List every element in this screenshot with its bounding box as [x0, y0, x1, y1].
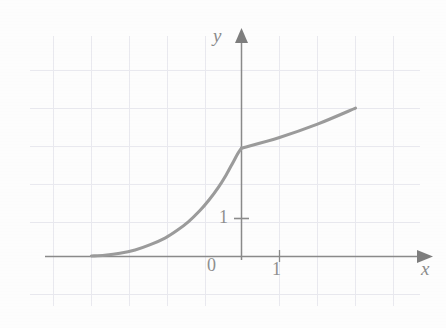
curve-linear-branch	[242, 108, 356, 148]
axes	[45, 42, 418, 262]
y-axis-label: y	[213, 25, 221, 47]
plot-canvas	[0, 0, 446, 328]
x-axis-label: x	[421, 258, 429, 280]
origin-label: 0	[207, 255, 216, 276]
grid-lines	[30, 36, 420, 306]
curve-exponential-branch	[91, 148, 241, 256]
axis-arrowheads	[235, 28, 433, 263]
graph-figure: y x 0 1 1	[0, 0, 446, 328]
x-axis-tick-label-one: 1	[272, 259, 281, 280]
y-axis-tick-label-one: 1	[219, 207, 228, 228]
y-axis-arrow-icon	[235, 28, 248, 43]
